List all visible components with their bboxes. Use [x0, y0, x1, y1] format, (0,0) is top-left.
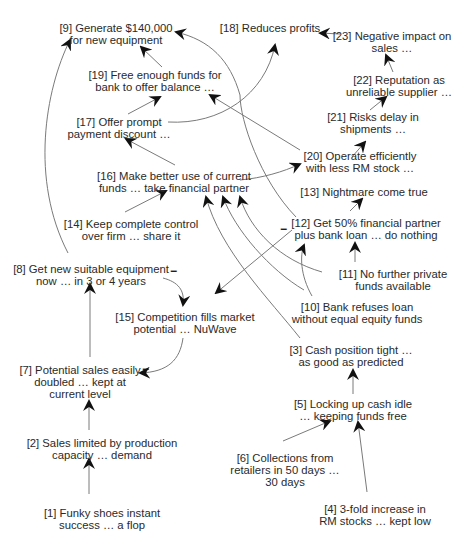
edge-10-16 [223, 197, 304, 290]
node-15: [15] Competition fills market potential … [115, 311, 254, 335]
node-21: [21] Risks delay in shipments … [327, 111, 419, 135]
node-22: [22] Reputation as unreliable supplier … [346, 74, 452, 98]
edge-19-9 [141, 47, 162, 67]
node-23: [23] Negative impact on sales … [333, 30, 452, 54]
node-12: [12] Get 50% financial partner plus bank… [291, 217, 440, 241]
edge-21-22 [370, 97, 386, 110]
edge-16-17 [126, 139, 175, 165]
node-1: [1] Funky shoes instant success … a flop [44, 507, 160, 531]
node-13: [13] Nightmare come true [300, 186, 427, 198]
node-19: [19] Free enough funds for bank to offer… [88, 69, 221, 93]
node-3: [3] Cash position tight … as good as pre… [289, 344, 412, 368]
node-20: [20] Operate efficiently with less RM st… [304, 150, 417, 174]
edge-14-16 [125, 191, 166, 212]
node-5: [5] Locking up cash idle … keeping funds… [294, 398, 412, 422]
negative-sign-12-15: − [280, 224, 287, 234]
node-11: [11] No further private funds available [339, 268, 447, 292]
node-7: [7] Potential sales easily doubled … kep… [19, 364, 140, 400]
node-9: [9] Generate $140,000 for new equipment [59, 22, 172, 46]
node-18: [18] Reduces profits [220, 22, 320, 34]
node-10: [10] Bank refuses loan without equal equ… [292, 301, 423, 325]
node-8: [8] Get new suitable equipment now … in … [13, 263, 169, 287]
edge-22-23 [386, 55, 393, 72]
negative-sign-8-15: − [170, 266, 177, 276]
edge-12-15 [216, 230, 292, 293]
cognitive-map-diagram: [1] Funky shoes instant success … a flop… [0, 0, 467, 550]
node-17: [17] Offer prompt payment discount … [68, 116, 171, 140]
negative-sign-15-7: − [142, 364, 149, 374]
node-4: [4] 3-fold increase in RM stocks … kept … [319, 503, 431, 527]
node-16: [16] Make better use of current funds … … [97, 170, 251, 194]
node-6: [6] Collections from retailers in 50 day… [230, 452, 339, 488]
edge-20-19 [210, 95, 300, 150]
edge-10-12 [302, 245, 312, 296]
edge-12-13 [350, 199, 362, 211]
edge-17-19 [128, 97, 160, 114]
node-2: [2] Sales limited by production capacity… [27, 437, 178, 461]
edge-6-5 [283, 421, 330, 441]
node-14: [14] Keep complete control over firm … s… [64, 218, 198, 242]
edge-4-5 [358, 422, 367, 492]
